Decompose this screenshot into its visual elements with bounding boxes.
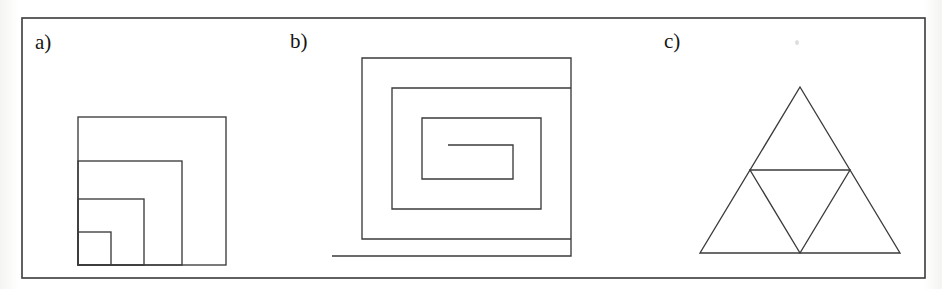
figure-label-c: c) bbox=[664, 31, 680, 52]
figure-label-b: b) bbox=[290, 31, 308, 52]
nested-square-inner bbox=[78, 232, 111, 265]
inverted-middle-triangle bbox=[750, 170, 850, 253]
figure-label-a: a) bbox=[35, 32, 51, 53]
spiral-polyline bbox=[332, 58, 571, 256]
nested-square-second bbox=[78, 161, 182, 265]
rectangular-spiral-figure bbox=[332, 58, 571, 256]
nested-squares-figure bbox=[78, 117, 226, 265]
scan-speck bbox=[795, 40, 799, 45]
sierpinski-triangle-figure bbox=[700, 87, 900, 253]
figures-canvas bbox=[0, 0, 942, 289]
nested-square-outer bbox=[78, 117, 226, 265]
figure-page: a) b) c) bbox=[0, 0, 942, 289]
